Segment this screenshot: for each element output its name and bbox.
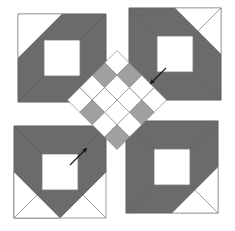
quilt-pattern-canvas [0, 0, 235, 231]
bottom-left-center-square [42, 154, 78, 190]
top-left-center-square [44, 40, 80, 76]
top-right-center-square [157, 36, 193, 72]
bottom-left-block [14, 126, 106, 218]
bottom-right-center-square [154, 149, 190, 185]
bottom-right-block [126, 121, 218, 213]
quilt-diagram [0, 0, 235, 231]
